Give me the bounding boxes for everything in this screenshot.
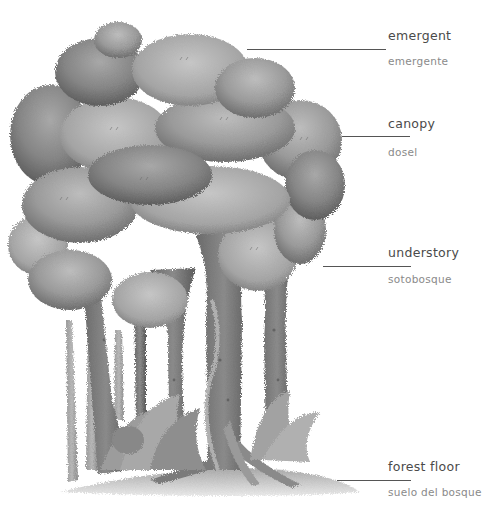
emergent-crown: [55, 22, 295, 118]
canopy-leader-line: [342, 136, 410, 137]
emergent-leader-line: [247, 49, 386, 50]
forest-floor-label-es: suelo del bosque: [388, 486, 482, 498]
emergent-label-es: emergente: [388, 55, 448, 67]
canopy-label: canopy: [388, 116, 435, 131]
forest-floor-leader-line: [337, 480, 411, 481]
understory-label: understory: [388, 245, 459, 260]
forest-floor-label: forest floor: [388, 459, 460, 474]
understory-label-es: sotobosque: [388, 273, 452, 285]
canopy-label-es: dosel: [388, 146, 417, 158]
bark-texture: [103, 328, 280, 401]
emergent-label: emergent: [388, 28, 451, 43]
understory-leader-line: [323, 266, 411, 267]
